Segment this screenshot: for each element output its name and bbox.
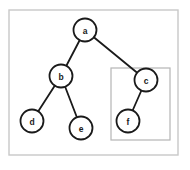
node-d[interactable]: d	[21, 110, 44, 133]
node-b-label: b	[58, 72, 63, 82]
node-f[interactable]: f	[117, 110, 140, 133]
figure-root: a b c d e f	[0, 0, 190, 170]
node-c[interactable]: c	[135, 69, 158, 92]
node-a-label: a	[83, 26, 88, 36]
node-a[interactable]: a	[74, 19, 97, 42]
node-e-label: e	[79, 124, 84, 134]
node-c-label: c	[144, 76, 149, 86]
node-e[interactable]: e	[70, 117, 93, 140]
nodes-group: a b c d e f	[21, 19, 158, 140]
tree-diagram: a b c d e f	[0, 0, 190, 170]
node-b[interactable]: b	[50, 65, 73, 88]
node-d-label: d	[29, 117, 34, 127]
node-f-label: f	[127, 117, 130, 127]
